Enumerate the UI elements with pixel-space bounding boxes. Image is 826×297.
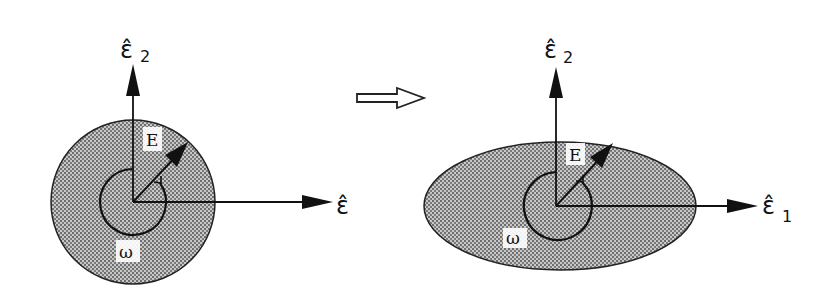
axis-e2-subscript: 2: [563, 48, 573, 67]
axis-e2-arrowhead-icon: [549, 67, 563, 98]
axis-e2-label: ε̂: [544, 36, 557, 64]
axis-e2-subscript: 2: [140, 47, 150, 66]
axis-e1-subscript: 1: [782, 207, 792, 226]
transition-arrow-icon: [357, 88, 424, 108]
axis-e1-label: ε̂: [336, 192, 349, 220]
rotation-label: ω: [506, 228, 520, 248]
vector-label: E: [146, 130, 158, 150]
axis-e1-arrowhead-icon: [727, 199, 758, 213]
axis-e1-label: ε̂: [762, 192, 775, 220]
vector-label: E: [569, 145, 581, 165]
right-panel: E ω ε̂ 2 ε̂ 1: [424, 36, 792, 270]
polarization-diagram: E ω ε̂ 2 ε̂ E ω ε̂ 2 ε̂ 1: [0, 0, 826, 297]
rotation-label: ω: [119, 242, 133, 262]
axis-e2-label: ε̂: [120, 36, 133, 64]
axis-e1-arrowhead-icon: [302, 195, 333, 209]
axis-e2-arrowhead-icon: [126, 64, 140, 96]
left-panel: E ω ε̂ 2 ε̂: [51, 36, 349, 284]
